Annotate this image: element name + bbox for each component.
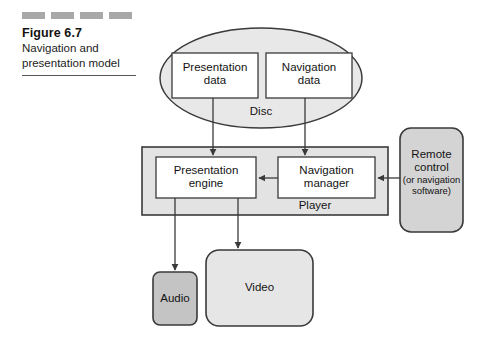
navigation-data-box bbox=[266, 53, 352, 98]
navigation-manager-box bbox=[278, 157, 375, 198]
remote-control-box bbox=[400, 128, 463, 232]
presentation-data-box bbox=[172, 53, 258, 98]
presentation-engine-box bbox=[156, 157, 256, 198]
figure-page: Figure 6.7 Navigation and presentation m… bbox=[0, 0, 501, 362]
video-output-box bbox=[206, 250, 313, 326]
audio-output-box bbox=[153, 272, 197, 325]
diagram-canvas: Presentation data Navigation data Disc P… bbox=[0, 0, 501, 362]
